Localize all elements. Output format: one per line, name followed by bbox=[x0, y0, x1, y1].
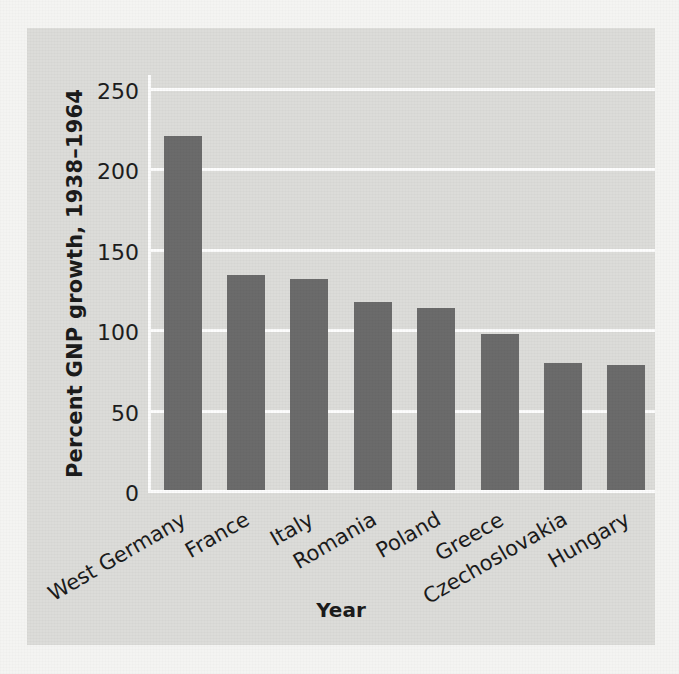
bar[interactable] bbox=[164, 136, 202, 490]
x-tick-label: Romania bbox=[289, 507, 381, 574]
bar[interactable] bbox=[544, 363, 582, 490]
plot-area bbox=[148, 75, 655, 493]
x-tick-label: France bbox=[181, 507, 253, 563]
y-tick-label: 100 bbox=[97, 320, 139, 345]
x-tick-label: Italy bbox=[266, 507, 317, 551]
bar[interactable] bbox=[354, 302, 392, 490]
y-axis-tick-labels: 050100150200250 bbox=[27, 75, 139, 493]
x-tick-label: Poland bbox=[372, 507, 445, 563]
gridline bbox=[148, 329, 655, 332]
bar[interactable] bbox=[227, 275, 265, 490]
y-axis-line bbox=[148, 75, 151, 493]
bar[interactable] bbox=[290, 279, 328, 490]
gridline bbox=[148, 88, 655, 91]
chart-panel: Percent GNP growth, 1938–1964 Year 05010… bbox=[27, 28, 655, 645]
y-tick-label: 0 bbox=[125, 481, 139, 506]
y-tick-label: 150 bbox=[97, 239, 139, 264]
bar[interactable] bbox=[607, 365, 645, 490]
y-tick-label: 200 bbox=[97, 159, 139, 184]
gridline bbox=[148, 249, 655, 252]
x-tick-label: West Germany bbox=[44, 507, 190, 605]
x-tick-label: Czechoslovakia bbox=[419, 507, 571, 609]
x-axis-line bbox=[148, 490, 655, 493]
gridline bbox=[148, 168, 655, 171]
y-tick-label: 50 bbox=[111, 400, 139, 425]
bar[interactable] bbox=[417, 308, 455, 490]
x-axis-title: Year bbox=[27, 598, 655, 622]
bar[interactable] bbox=[481, 334, 519, 490]
x-tick-label: Greece bbox=[431, 507, 508, 565]
figure: Percent GNP growth, 1938–1964 Year 05010… bbox=[0, 0, 679, 674]
x-tick-label: Hungary bbox=[544, 507, 634, 573]
y-tick-label: 250 bbox=[97, 79, 139, 104]
